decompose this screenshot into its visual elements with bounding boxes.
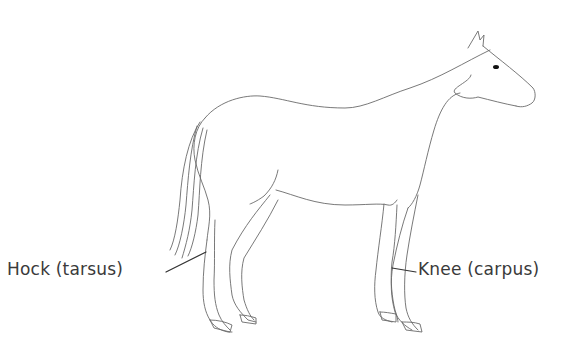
far-fore-leg — [375, 204, 392, 322]
ears — [468, 31, 484, 48]
hock-label: Hock (tarsus) — [7, 259, 123, 279]
hind-hoof-near — [210, 320, 232, 332]
knee-label: Knee (carpus) — [418, 259, 539, 279]
fore-hoof-near — [402, 322, 422, 332]
flank-stroke — [250, 170, 278, 204]
back-outline — [205, 50, 490, 118]
neck-underside — [408, 93, 460, 208]
fore-hoof-far — [380, 312, 396, 322]
hock-leader-line — [166, 252, 206, 272]
near-fore-leg-back — [405, 195, 418, 330]
knee-leader-line — [392, 268, 416, 272]
near-hind-leg-back — [214, 220, 230, 330]
horse-drawing — [0, 0, 584, 356]
jaw-outline — [454, 75, 516, 106]
far-hind-leg-back — [242, 200, 278, 320]
near-hind-leg — [203, 240, 232, 332]
hind-thigh — [194, 118, 210, 240]
face-outline — [483, 46, 535, 107]
belly-outline — [276, 190, 397, 205]
far-hind-leg — [230, 195, 270, 322]
far-fore-leg-back — [391, 205, 398, 322]
eye — [493, 65, 499, 69]
tail-strand-4 — [188, 130, 207, 256]
horse-anatomy-diagram: Hock (tarsus) Knee (carpus) — [0, 0, 584, 356]
